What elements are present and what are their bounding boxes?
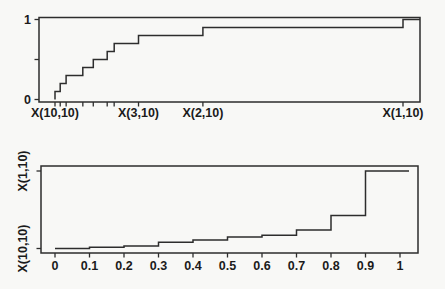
x-tick-label: 0.6: [253, 259, 270, 273]
x-tick-label: 0.7: [288, 259, 305, 273]
x-tick-label: X(1,10): [383, 106, 424, 120]
x-tick-label: X(2,10): [182, 106, 223, 120]
x-tick-label: 0.5: [219, 259, 236, 273]
x-tick-label: 0.4: [184, 259, 201, 273]
x-tick-label: X(10,10): [31, 106, 79, 120]
x-tick-label: 0.2: [115, 259, 132, 273]
quantile-step-curve: [55, 171, 409, 249]
bottom-quantile-plot: 00.10.20.30.40.50.60.70.80.91X(1,10)X(10…: [16, 151, 418, 274]
ecdf-step-curve: [55, 20, 420, 100]
x-tick-label: 0: [52, 259, 59, 273]
y-tick-label: 1: [24, 13, 31, 27]
y-tick-label: X(1,10): [16, 151, 30, 192]
x-tick-label: 1: [397, 259, 404, 273]
x-tick-label: X(3,10): [118, 106, 159, 120]
order-statistics-figure: 10X(10,10)X(3,10)X(2,10)X(1,10)00.10.20.…: [0, 0, 445, 289]
x-tick-label: 0.3: [150, 259, 167, 273]
x-tick-label: 0.1: [81, 259, 98, 273]
x-tick-label: 0.8: [322, 259, 339, 273]
plot-frame: [41, 166, 418, 253]
y-tick-label: 0: [24, 93, 31, 107]
top-ecdf-plot: 10X(10,10)X(3,10)X(2,10)X(1,10): [24, 13, 423, 120]
figure: 10X(10,10)X(3,10)X(2,10)X(1,10)00.10.20.…: [0, 0, 445, 289]
x-tick-label: 0.9: [357, 259, 374, 273]
y-tick-label: X(10,10): [16, 225, 30, 273]
